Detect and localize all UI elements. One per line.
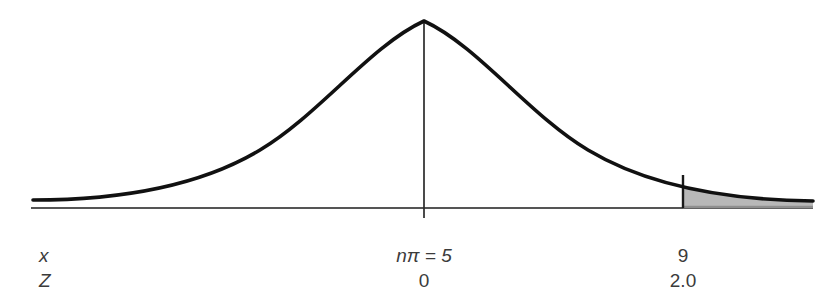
axis-name-column: x Z	[39, 243, 99, 293]
normal-distribution-figure: x Z nπ = 5 0 9 2.0	[0, 0, 837, 304]
bell-curve-path	[33, 21, 813, 201]
tick-label-cutoff-x: 9	[583, 243, 783, 268]
shaded-tail-area	[33, 21, 813, 208]
tick-label-mean-z: 0	[324, 268, 524, 293]
tick-label-mean-x: nπ = 5	[324, 243, 524, 268]
tick-group-cutoff: 9 2.0	[583, 243, 783, 293]
tick-label-cutoff-z: 2.0	[583, 268, 783, 293]
axis-z-name: Z	[39, 268, 99, 293]
tick-group-mean: nπ = 5 0	[324, 243, 524, 293]
axis-x-name: x	[39, 243, 99, 268]
